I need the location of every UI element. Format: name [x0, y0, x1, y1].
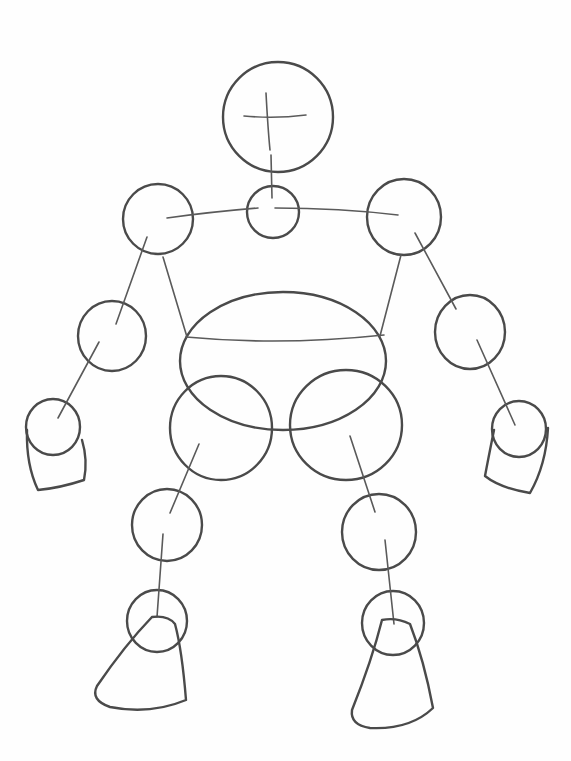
chest-horizontal-line	[186, 335, 384, 341]
right-hip-circle	[290, 370, 402, 480]
right-shin-line	[385, 540, 394, 624]
right-clavicle-line	[275, 208, 398, 215]
right-torso-side-line	[380, 255, 401, 336]
joint-circles	[26, 62, 546, 655]
left-upper-arm-line	[116, 237, 147, 324]
torso-ellipse	[180, 292, 386, 430]
head-vertical-guide	[266, 93, 270, 150]
left-shin-line	[157, 534, 163, 617]
left-forearm-line	[58, 342, 99, 418]
sketch-canvas	[0, 0, 571, 761]
right-shoulder-circle	[367, 179, 441, 255]
left-wrist-circle	[26, 399, 80, 455]
left-clavicle-line	[167, 208, 258, 218]
neck-spine-line	[271, 155, 272, 198]
right-elbow-circle	[435, 295, 505, 369]
right-upper-arm-line	[415, 233, 456, 309]
right-wrist-circle	[492, 401, 546, 457]
robot-figure-sketch	[0, 0, 571, 761]
left-foot-outline	[95, 617, 186, 710]
left-torso-side-line	[163, 257, 187, 337]
left-knee-circle	[132, 489, 202, 561]
skeleton-lines	[27, 93, 548, 728]
neck-circle	[247, 186, 299, 238]
left-shoulder-circle	[123, 184, 193, 254]
right-knee-circle	[342, 494, 416, 570]
head-horizontal-guide	[244, 115, 306, 117]
right-ankle-circle	[362, 591, 424, 655]
